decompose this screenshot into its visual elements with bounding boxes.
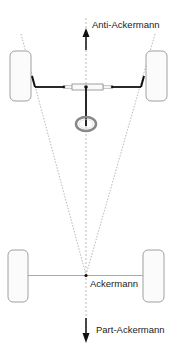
forward-arrow-icon <box>83 28 90 37</box>
label-anti-ackermann: Anti-Ackermann <box>92 20 160 30</box>
ackermann-point <box>84 274 87 277</box>
ackermann-line-right <box>86 34 155 275</box>
steering-arm-left <box>32 76 35 87</box>
rearward-arrow-icon <box>83 333 90 343</box>
label-ackermann: Ackermann <box>90 279 138 289</box>
front-right-wheel <box>146 51 167 101</box>
front-left-wheel <box>10 51 31 101</box>
ackermann-diagram <box>0 0 178 357</box>
rear-right-wheel <box>143 250 164 302</box>
rear-left-wheel <box>8 250 28 302</box>
label-part-ackermann: Part-Ackermann <box>96 325 165 335</box>
rack-boot-right <box>103 86 111 89</box>
